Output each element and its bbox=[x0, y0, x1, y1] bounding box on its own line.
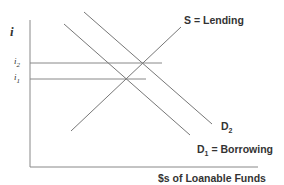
demand-curve-d2 bbox=[84, 12, 212, 124]
y-axis-label: i bbox=[10, 24, 14, 40]
supply-label: S = Lending bbox=[184, 14, 244, 26]
i2-label: i2 bbox=[14, 56, 20, 69]
d1-label: D1 = Borrowing bbox=[197, 143, 273, 157]
i1-label: i1 bbox=[14, 72, 20, 85]
x-axis-label: $s of Loanable Funds bbox=[158, 172, 266, 184]
d2-label: D2 bbox=[221, 120, 233, 134]
loanable-funds-chart bbox=[0, 0, 284, 185]
